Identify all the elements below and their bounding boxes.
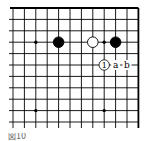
- point-letter-label: b: [124, 60, 130, 70]
- figure-caption: 図10: [8, 133, 26, 141]
- white-stone: [88, 37, 99, 48]
- go-board: 1ab: [0, 0, 144, 128]
- point-letter-label: a: [113, 60, 119, 70]
- star-point: [34, 109, 37, 112]
- black-stone: [53, 37, 64, 48]
- move-number-label: 1: [102, 61, 107, 70]
- star-point: [103, 41, 106, 44]
- black-stone: [110, 37, 121, 48]
- star-point: [103, 109, 106, 112]
- star-point: [34, 41, 37, 44]
